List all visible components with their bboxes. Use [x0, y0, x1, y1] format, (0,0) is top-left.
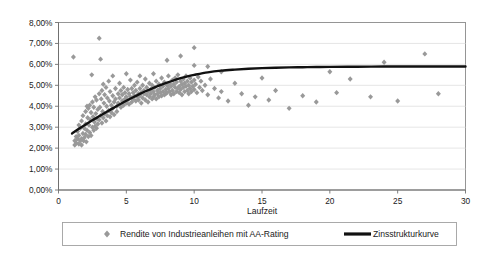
y-tick-label: 0,00% — [29, 185, 53, 195]
legend-entry-rendite: Rendite von Industrieanleihen mit AA-Rat… — [104, 229, 289, 239]
y-tick-label: 7,00% — [29, 38, 53, 48]
x-tick-label: 5 — [124, 196, 129, 206]
y-tick-label: 1,00% — [29, 164, 53, 174]
y-tick-label: 3,00% — [29, 122, 53, 132]
x-tick-label: 20 — [325, 196, 335, 206]
legend-label-zinsstrukturkurve: Zinsstrukturkurve — [373, 229, 439, 239]
y-tick-label: 4,00% — [29, 101, 53, 111]
x-tick-label: 15 — [257, 196, 267, 206]
y-tick-label: 8,00% — [29, 18, 53, 28]
legend-label-rendite: Rendite von Industrieanleihen mit AA-Rat… — [120, 229, 289, 239]
scatter-chart: 0,00%1,00%2,00%3,00%4,00%5,00%6,00%7,00%… — [0, 0, 492, 255]
chart-container: 0,00%1,00%2,00%3,00%4,00%5,00%6,00%7,00%… — [0, 0, 492, 255]
x-tick-label: 10 — [190, 196, 200, 206]
y-tick-label: 6,00% — [29, 59, 53, 69]
x-tick-label: 0 — [56, 196, 61, 206]
x-tick-label: 30 — [461, 196, 471, 206]
x-axis-title: Laufzeit — [247, 206, 278, 216]
x-tick-label: 25 — [393, 196, 403, 206]
y-axis-tick-labels: 0,00%1,00%2,00%3,00%4,00%5,00%6,00%7,00%… — [29, 18, 53, 196]
y-tick-label: 2,00% — [29, 143, 53, 153]
y-tick-label: 5,00% — [29, 80, 53, 90]
